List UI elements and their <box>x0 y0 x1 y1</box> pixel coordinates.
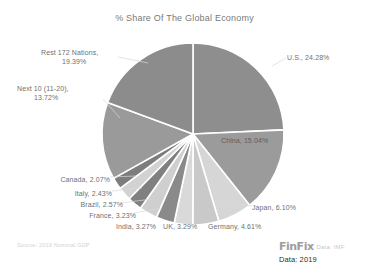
data-source-text: Data: IMF <box>317 244 345 250</box>
slice-label-japan: Japan, 6.10% <box>252 203 296 213</box>
slice-label-china: China, 15.04% <box>221 136 268 146</box>
source-note: Source: 2019 Nominal GDP <box>17 242 90 248</box>
slice-label-next10-value: 13.72% <box>34 93 58 103</box>
data-year-text: Data: 2019 <box>279 255 365 264</box>
slice-label-uk: UK, 3.29% <box>163 222 197 232</box>
pie-slices-group <box>102 43 284 225</box>
slice-label-rest-value: 19.39% <box>62 57 86 67</box>
slice-label-india: India, 3.27% <box>116 222 156 232</box>
leader-line-us <box>272 58 286 66</box>
slice-label-france: France, 3.23% <box>48 211 136 221</box>
slice-label-germany: Germany, 4.61% <box>208 222 261 232</box>
brand-watermark: FinFixData: IMF Data: 2019 <box>279 237 365 264</box>
slice-label-canada: Canada, 2.07% <box>24 175 110 185</box>
finfix-logo: FinFix <box>279 240 314 253</box>
slice-label-us: U.S., 24.28% <box>287 53 329 63</box>
pie-slice-u-s <box>193 43 284 134</box>
pie-chart-figure: % Share Of The Global Economy U.S., 24.2… <box>0 0 369 272</box>
slice-label-brazil: Brazil, 2.57% <box>38 200 123 210</box>
slice-label-italy: Italy, 2.43% <box>30 189 112 199</box>
